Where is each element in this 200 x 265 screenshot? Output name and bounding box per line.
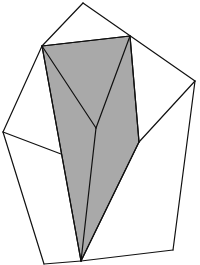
shaded-region — [42, 36, 139, 261]
upper-left-outer-edge — [3, 46, 42, 132]
left-flap-inner-edge — [3, 132, 61, 154]
top-left-upper-edge — [42, 3, 83, 46]
right-outer-edge — [173, 81, 195, 250]
bottom-left-edge — [44, 261, 81, 264]
right-flap-inner-edge — [139, 81, 195, 142]
geometric-diagram — [0, 0, 200, 265]
lower-left-outer-edge — [3, 132, 44, 264]
bottom-right-edge — [81, 250, 173, 261]
